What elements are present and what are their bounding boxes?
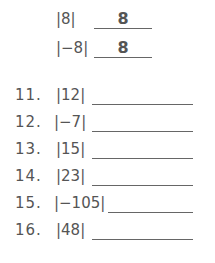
problem-row: 14. |23|: [0, 167, 215, 189]
example-row: |8| 8: [0, 10, 215, 32]
problem-expression: |48|: [56, 221, 85, 239]
problem-number: 12.: [15, 113, 42, 131]
example-answer: 8: [94, 9, 152, 28]
problem-row: 15. |−105|: [0, 194, 215, 216]
example-row: |−8| 8: [0, 39, 215, 61]
problem-expression: |−105|: [54, 194, 105, 212]
problem-number: 13.: [15, 140, 42, 158]
problem-expression: |12|: [56, 86, 85, 104]
problem-expression: |23|: [56, 167, 85, 185]
example-answer: 8: [94, 38, 152, 57]
problem-expression: |−7|: [54, 113, 86, 131]
answer-blank[interactable]: [92, 221, 193, 240]
answer-blank[interactable]: [92, 140, 193, 159]
problem-number: 16.: [15, 221, 42, 239]
problem-number: 15.: [15, 194, 42, 212]
problem-row: 16. |48|: [0, 221, 215, 243]
answer-blank[interactable]: [92, 113, 193, 132]
answer-blank[interactable]: [108, 194, 193, 213]
answer-blank[interactable]: [92, 167, 193, 186]
answer-blank[interactable]: [92, 86, 193, 105]
problem-row: 12. |−7|: [0, 113, 215, 135]
example-expression: |8|: [56, 10, 76, 28]
problem-row: 13. |15|: [0, 140, 215, 162]
problem-number: 14.: [15, 167, 42, 185]
problem-row: 11. |12|: [0, 86, 215, 108]
example-expression: |−8|: [56, 39, 88, 57]
problem-expression: |15|: [56, 140, 85, 158]
problem-number: 11.: [15, 86, 42, 104]
